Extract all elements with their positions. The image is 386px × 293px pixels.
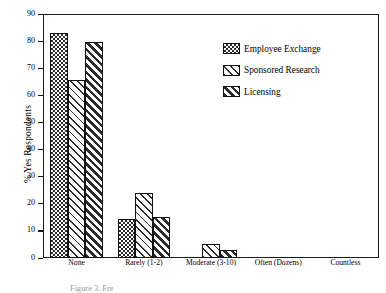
legend-label: Employee Exchange xyxy=(244,44,321,54)
x-tick-label: Rarely (1-2) xyxy=(125,258,162,267)
bar xyxy=(85,42,103,258)
legend-swatch-icon xyxy=(223,65,240,76)
bar xyxy=(118,219,136,258)
bar xyxy=(220,250,238,258)
y-tick-label: 50 xyxy=(27,117,35,126)
x-tick-label: None xyxy=(68,258,84,267)
y-tick-label: 10 xyxy=(27,225,35,234)
bar xyxy=(202,244,220,258)
y-tick-label: 20 xyxy=(27,198,35,207)
legend-item: Sponsored Research xyxy=(223,60,373,82)
y-tick-label: 40 xyxy=(27,144,35,153)
legend-label: Sponsored Research xyxy=(244,65,320,75)
legend-swatch-icon xyxy=(223,43,240,54)
legend-item: Employee Exchange xyxy=(223,38,373,60)
y-tick-label: 70 xyxy=(27,63,35,72)
legend-label: Licensing xyxy=(244,87,281,97)
chart-legend: Employee ExchangeSponsored ResearchLicen… xyxy=(223,38,373,103)
legend-swatch-icon xyxy=(223,86,240,97)
y-tick-label: 30 xyxy=(27,171,35,180)
legend-item: Licensing xyxy=(223,81,373,103)
bar xyxy=(50,33,68,258)
bar xyxy=(153,217,171,258)
x-tick-label: Moderate (3-10) xyxy=(186,258,236,267)
x-tick-label: Countless xyxy=(330,258,360,267)
x-tick-label: Often (Dozens) xyxy=(255,258,302,267)
y-tick-label: 60 xyxy=(27,90,35,99)
figure-caption: Figure 3. Fre xyxy=(70,284,114,293)
bar xyxy=(68,80,86,258)
bar xyxy=(135,193,153,258)
y-tick-label: 80 xyxy=(27,36,35,45)
bar-chart-figure: % Yes Respondents 0102030405060708090 No… xyxy=(0,0,386,293)
y-tick-label: 90 xyxy=(27,9,35,18)
y-tick-label: 0 xyxy=(31,253,35,262)
